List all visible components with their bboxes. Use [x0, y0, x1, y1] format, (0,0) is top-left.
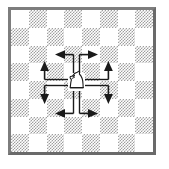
board-square — [64, 134, 82, 152]
board-square — [118, 46, 136, 64]
board-square — [118, 99, 136, 117]
board-square — [29, 134, 47, 152]
board-square — [135, 81, 153, 99]
board-square — [64, 99, 82, 117]
board-square — [47, 63, 65, 81]
board-square — [135, 28, 153, 46]
board-square — [64, 117, 82, 135]
board-square — [100, 117, 118, 135]
board-square — [82, 99, 100, 117]
board-square — [11, 28, 29, 46]
board-square — [135, 117, 153, 135]
board-square — [100, 81, 118, 99]
board-square — [29, 99, 47, 117]
board-square — [118, 117, 136, 135]
knight-move-diagram — [0, 0, 169, 169]
board-square — [47, 28, 65, 46]
board-square — [135, 134, 153, 152]
board-square — [29, 63, 47, 81]
board-square — [135, 99, 153, 117]
board-square — [118, 134, 136, 152]
board-square — [29, 10, 47, 28]
board-square — [118, 81, 136, 99]
board-square — [47, 10, 65, 28]
board-square — [82, 28, 100, 46]
board-square — [64, 28, 82, 46]
board-square — [29, 28, 47, 46]
board-square — [29, 46, 47, 64]
board-square — [11, 10, 29, 28]
board-square — [47, 99, 65, 117]
board-square — [118, 28, 136, 46]
board-square — [100, 28, 118, 46]
board-square — [11, 81, 29, 99]
board-square — [100, 63, 118, 81]
board-square — [47, 46, 65, 64]
board-square — [118, 63, 136, 81]
board-square — [11, 46, 29, 64]
board-square — [11, 63, 29, 81]
board-square — [82, 134, 100, 152]
board-square — [100, 134, 118, 152]
board-square — [11, 99, 29, 117]
board-square — [135, 46, 153, 64]
board-square — [82, 46, 100, 64]
board-square — [11, 134, 29, 152]
knight-icon — [66, 69, 88, 93]
board-square — [64, 46, 82, 64]
board-square — [29, 117, 47, 135]
board-square — [82, 10, 100, 28]
board-square — [47, 134, 65, 152]
board-square — [82, 117, 100, 135]
board-square — [100, 46, 118, 64]
board-square — [135, 10, 153, 28]
board-square — [100, 99, 118, 117]
board-square — [29, 81, 47, 99]
board-square — [118, 10, 136, 28]
board-square — [47, 117, 65, 135]
board-square — [47, 81, 65, 99]
board-square — [100, 10, 118, 28]
board-square — [64, 10, 82, 28]
board-square — [11, 117, 29, 135]
board-square — [135, 63, 153, 81]
